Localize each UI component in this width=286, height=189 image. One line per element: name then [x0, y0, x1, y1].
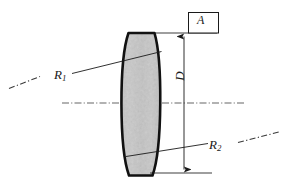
label-radius-r1: R1: [54, 67, 66, 83]
lens-diagram-figure: R1 R2 D A: [0, 0, 286, 189]
construction-line-left: [9, 77, 40, 89]
construction-line-right: [238, 132, 281, 143]
label-diameter-d: D: [172, 71, 188, 80]
lens-diagram-canvas: [0, 0, 286, 189]
label-aperture-a: A: [197, 13, 204, 28]
label-radius-r2: R2: [209, 137, 221, 153]
